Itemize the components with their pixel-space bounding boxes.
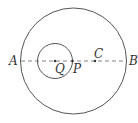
- label-c: C: [94, 47, 103, 61]
- label-a: A: [8, 54, 18, 68]
- label-p: P: [72, 62, 82, 76]
- label-q: Q: [55, 62, 65, 76]
- label-b: B: [128, 54, 138, 68]
- geometry-diagram: A B C Q P: [0, 0, 138, 123]
